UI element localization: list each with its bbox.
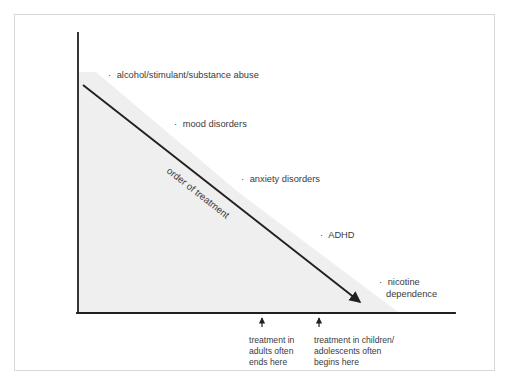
annotation-adults: treatment in adults often ends here bbox=[249, 335, 297, 367]
figure-root: order of treatment · alcohol/stimulant/s… bbox=[0, 0, 509, 386]
bullet-marker: · bbox=[108, 70, 111, 80]
annotation-line3: ends here bbox=[249, 357, 287, 367]
bullet-marker: · bbox=[174, 119, 177, 129]
annotation-line1: treatment in bbox=[249, 335, 295, 345]
bullet-marker: · bbox=[320, 230, 323, 240]
label-text: anxiety disorders bbox=[250, 174, 321, 184]
label-text-line1: nicotine bbox=[388, 277, 420, 287]
label-text: ADHD bbox=[328, 230, 355, 240]
annotation-line2: adolescents often bbox=[314, 346, 382, 356]
label-anxiety-disorders: · anxiety disorders bbox=[241, 174, 320, 184]
annotation-line3: begins here bbox=[314, 357, 359, 367]
order-of-treatment-diagram: order of treatment · alcohol/stimulant/s… bbox=[0, 0, 509, 386]
annotation-children-adolescents: treatment in children/ adolescents often… bbox=[314, 335, 397, 367]
label-text: alcohol/stimulant/substance abuse bbox=[117, 70, 259, 80]
annotation-line1: treatment in children/ bbox=[314, 335, 395, 345]
bullet-marker: · bbox=[379, 277, 382, 287]
shaded-region-body bbox=[78, 72, 398, 312]
label-text: mood disorders bbox=[183, 119, 247, 129]
label-text-line2: dependence bbox=[386, 289, 437, 299]
label-mood-disorders: · mood disorders bbox=[174, 119, 247, 129]
bullet-marker: · bbox=[241, 174, 244, 184]
label-adhd: · ADHD bbox=[320, 230, 355, 240]
annotation-line2: adults often bbox=[249, 346, 294, 356]
label-alcohol-stimulant-substance-abuse: · alcohol/stimulant/substance abuse bbox=[108, 70, 259, 80]
label-nicotine-dependence: · nicotine dependence bbox=[379, 277, 437, 299]
